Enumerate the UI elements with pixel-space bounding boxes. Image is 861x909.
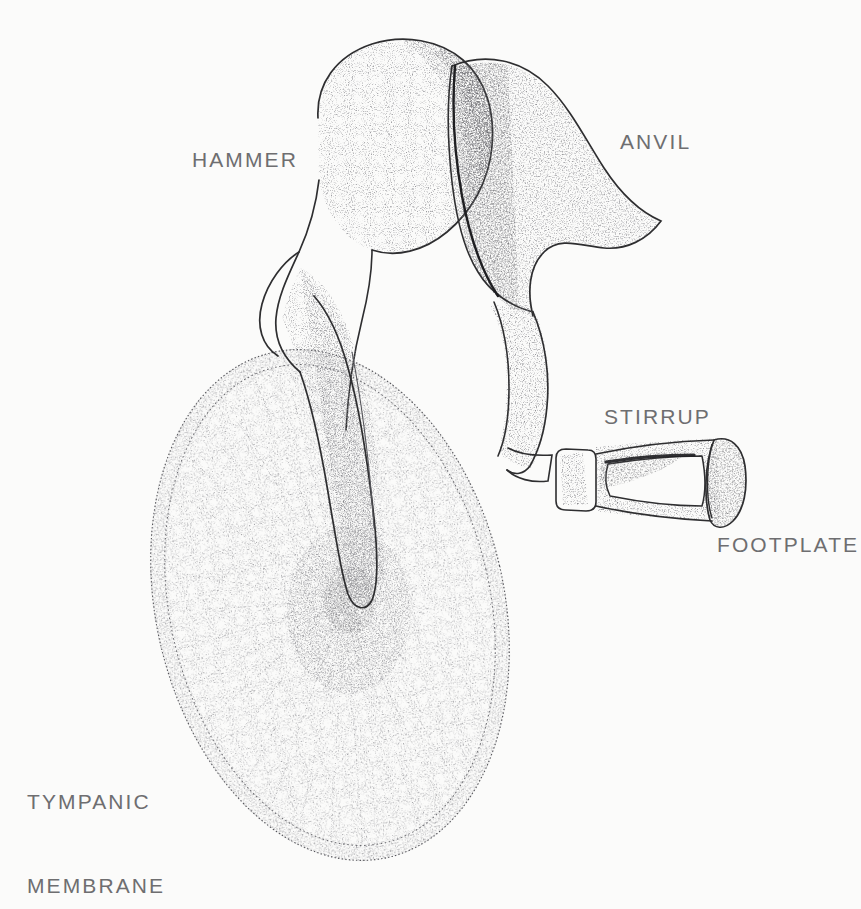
label-anvil: ANVIL — [620, 128, 691, 156]
label-tympanic-line1: TYMPANIC — [27, 788, 165, 816]
label-hammer: HAMMER — [192, 146, 298, 174]
label-tympanic-membrane: TYMPANIC MEMBRANE — [27, 733, 165, 909]
illustration-plate: HAMMER ANVIL STIRRUP FOOTPLATE TYMPANIC … — [0, 0, 861, 909]
label-footplate: FOOTPLATE — [717, 531, 859, 559]
label-tympanic-line2: MEMBRANE — [27, 872, 165, 900]
label-stirrup: STIRRUP — [604, 403, 711, 431]
